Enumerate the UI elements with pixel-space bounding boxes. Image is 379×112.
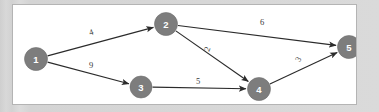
graph-node[interactable]: 3 — [130, 76, 152, 98]
graph-edge — [48, 27, 154, 56]
node-label: 1 — [33, 54, 39, 65]
edge-weight-label: 5 — [196, 76, 200, 86]
graph-edge — [176, 31, 249, 82]
edge-weight-label: 4 — [87, 26, 95, 37]
node-label: 3 — [138, 82, 143, 93]
edge-weight-label: 2 — [202, 45, 213, 53]
node-label: 2 — [163, 19, 168, 30]
graph-canvas: 496253 12345 — [13, 5, 356, 104]
node-label: 4 — [256, 84, 262, 95]
graph-node[interactable]: 4 — [248, 78, 271, 101]
graph-edge — [270, 52, 337, 83]
graph-node[interactable]: 5 — [338, 36, 357, 59]
figure-panel: 496253 12345 — [12, 4, 357, 105]
edge-weight-label: 9 — [89, 60, 93, 70]
edge-weight-label: 3 — [293, 55, 304, 64]
graph-node[interactable]: 1 — [25, 48, 48, 71]
graph-node[interactable]: 2 — [155, 13, 178, 36]
graph-edge — [178, 25, 336, 45]
node-label: 5 — [346, 42, 352, 53]
graph-edge — [152, 87, 246, 89]
edge-weight-label: 6 — [260, 17, 264, 27]
